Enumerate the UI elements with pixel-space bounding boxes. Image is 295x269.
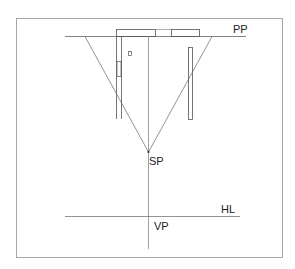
perspective-diagram: PP SP HL VP bbox=[0, 0, 295, 269]
right-wall bbox=[189, 48, 193, 120]
station-point-marker bbox=[148, 151, 150, 153]
diagram-frame bbox=[17, 19, 283, 258]
small-object bbox=[129, 52, 132, 56]
left-wall-door bbox=[117, 62, 121, 77]
label-station-point: SP bbox=[149, 155, 164, 167]
label-horizon-line: HL bbox=[221, 203, 235, 215]
label-picture-plane: PP bbox=[233, 23, 248, 35]
plan-wall-right-top bbox=[172, 30, 200, 37]
cone-line-right bbox=[149, 37, 213, 153]
label-vanishing-point: VP bbox=[154, 220, 169, 232]
plan-wall-left-top bbox=[117, 30, 156, 37]
